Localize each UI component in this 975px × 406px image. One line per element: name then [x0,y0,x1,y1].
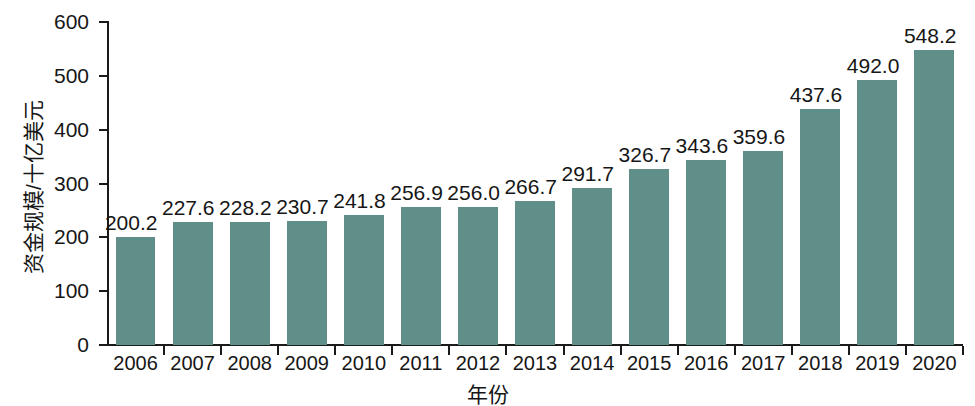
bar [857,80,897,345]
y-axis-tick-label: 300 [25,172,89,196]
bar [401,207,441,345]
x-axis-title: 年份 [0,378,975,406]
bar [686,160,726,345]
bar [629,169,669,345]
x-axis-tick-label: 2018 [792,352,849,375]
x-axis-tick-label: 2009 [278,352,335,375]
bar [458,207,498,345]
x-axis-tick-label: 2010 [335,352,392,375]
x-axis-tick-label: 2019 [849,352,906,375]
y-axis-tick-label: 0 [25,333,89,357]
y-axis-tick [99,344,108,346]
y-axis-tick-label: 400 [25,118,89,142]
bar [230,222,270,345]
x-axis-tick-label: 2015 [621,352,678,375]
x-axis-tick-label: 2014 [564,352,621,375]
x-axis-tick-label: 2012 [449,352,506,375]
bar [344,215,384,345]
y-axis-tick-label: 100 [25,279,89,303]
bar-value-label: 492.0 [813,54,899,78]
x-axis-tick-label: 2017 [735,352,792,375]
bar [914,50,954,345]
y-axis-tick [99,75,108,77]
y-axis-tick [99,290,108,292]
bar [116,237,156,345]
y-axis-tick-label: 500 [25,64,89,88]
x-axis-tick-label: 2016 [678,352,735,375]
bar [800,109,840,345]
x-axis-tick-label: 2008 [221,352,278,375]
bar-value-label: 548.2 [870,24,956,48]
y-axis-tick [99,21,108,23]
bar [287,221,327,345]
x-axis-tick-label: 2007 [164,352,221,375]
bar-value-label: 437.6 [756,83,842,107]
y-axis-tick [99,183,108,185]
bar [515,201,555,345]
x-axis-tick-label: 2011 [392,352,449,375]
x-axis-tick-label: 2013 [506,352,563,375]
y-axis-tick [99,129,108,131]
bar-value-label: 359.6 [699,125,785,149]
bar [743,151,783,345]
y-axis-tick [99,236,108,238]
bar [572,188,612,345]
x-axis-tick-label: 2020 [906,352,963,375]
x-axis-tick-label: 2006 [107,352,164,375]
y-axis-tick-label: 600 [25,10,89,34]
bar-chart: 资金规模/十亿美元 0100200300400500600200.2200622… [0,0,975,406]
bar [173,222,213,345]
